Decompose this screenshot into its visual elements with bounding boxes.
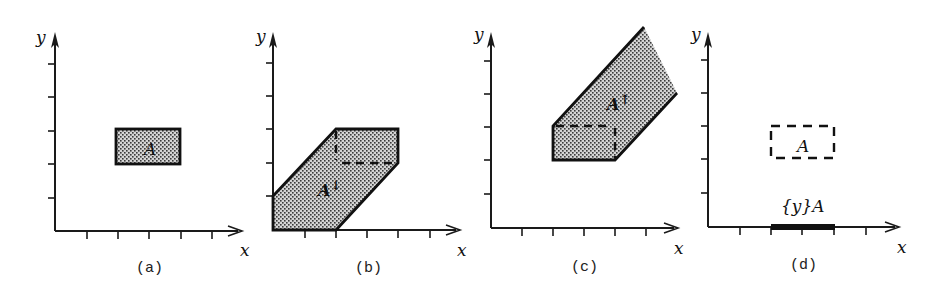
y-axis-label: y (690, 24, 701, 44)
figure-canvas: y A (a) y x A↓ (b) (0, 0, 945, 290)
panel-d: y x A {y}A (d) (690, 24, 907, 274)
x-axis-label: x (897, 237, 907, 257)
x-axis-label: x (674, 238, 684, 258)
projection-label: {y}A (781, 196, 825, 216)
y-axis (48, 32, 59, 231)
panel-c: y x A↑ (c) (473, 24, 684, 276)
panel-caption: (a) (136, 260, 163, 277)
y-axis (701, 32, 712, 227)
x-axis (491, 223, 678, 236)
panel-a: y A (a) (35, 27, 242, 277)
y-axis (484, 32, 495, 228)
y-axis-label: y (35, 27, 46, 47)
panel-caption: (d) (790, 257, 817, 274)
region-a-up (553, 27, 677, 160)
panel-caption: (b) (355, 260, 382, 277)
region-label: A (142, 139, 156, 159)
x-axis-label-a: x (240, 240, 250, 260)
panel-caption: (c) (571, 259, 598, 276)
region-label: A (795, 136, 809, 156)
x-axis (55, 226, 242, 239)
y-axis-label: y (255, 26, 266, 46)
x-axis-label: x (457, 240, 467, 260)
panel-b: y x A↓ (b) (255, 26, 467, 277)
y-axis-label: y (473, 24, 484, 44)
